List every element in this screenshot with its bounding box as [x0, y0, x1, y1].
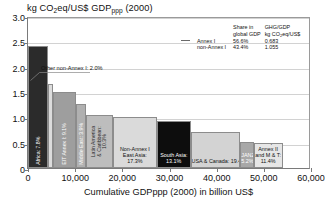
bar-label: South Asia: 13.1%	[158, 152, 190, 164]
legend-header-blank-2	[197, 31, 233, 38]
legend-header-row: Share in GHG/GDP	[197, 24, 304, 31]
legend-row-non-annex-i: non-Annex I 43.4% 1.055	[197, 44, 304, 51]
legend-row-label-non-annex-i: non-Annex I	[197, 44, 233, 51]
bar-label: Europe Annex II and M & T: 11.4%	[255, 143, 282, 164]
bar-label: JANZ: 5.2%	[241, 152, 252, 164]
bar-middle-east[interactable]: Middle East: 3.9%	[76, 104, 86, 168]
other-non-annex-callout-label: Other non-Annex I: 2.0%	[41, 65, 103, 71]
bar-eit-annex-i[interactable]: EIT Annex I: 9.1%	[53, 92, 76, 168]
legend-header-row-2: global GDP kg CO2eq/US$	[197, 31, 304, 38]
legend-header-ghg-line1: GHG/GDP	[265, 24, 305, 31]
legend-ghg-unit-post: eq/US$	[282, 31, 300, 37]
legend-row-label-annex-i: Annex I	[197, 38, 233, 45]
legend-row-ghg-annex-i: 0.683	[265, 38, 305, 45]
x-tick-label: 50,000	[250, 173, 278, 183]
bar-janz[interactable]: JANZ: 5.2%	[240, 142, 253, 168]
x-tick-label: 0	[25, 173, 30, 183]
y-tick-label: 1.5	[12, 89, 25, 99]
chart-title: kg CO2eq/US$ GDPppp (2000)	[27, 3, 153, 13]
bar-latin-america-and-caribbean[interactable]: Latin America & Caribbean: 10.3%	[86, 115, 112, 168]
y-gridline	[28, 18, 309, 19]
legend-header-blank	[197, 24, 233, 31]
bar-label: Latin America & Caribbean: 10.3%	[90, 118, 107, 165]
bar-label: USA & Canada: 19.4%	[192, 158, 240, 164]
legend-row-share-non-annex-i: 43.4%	[233, 44, 265, 51]
x-tick-label: 60,000	[297, 173, 325, 183]
chart-title-part-1: kg CO	[27, 3, 54, 13]
legend-ghg-unit-pre: kg CO	[265, 31, 280, 37]
x-tick-label: 30,000	[156, 173, 184, 183]
bar-label: EIT Annex I: 9.1%	[63, 124, 69, 165]
y-tick-label: 3.0	[12, 13, 25, 23]
chart-figure: kg CO2eq/US$ GDPppp (2000) 00.51.01.52.0…	[0, 0, 335, 200]
x-tick-label: 10,000	[61, 173, 89, 183]
y-tick-label: 1.0	[12, 114, 25, 124]
bar-label: Africa: 7.8%	[36, 137, 42, 165]
x-tick-mark	[217, 168, 218, 172]
x-tick-label: 20,000	[109, 173, 137, 183]
x-tick-mark	[75, 168, 76, 172]
legend-dash-annex-i	[181, 40, 190, 41]
y-tick-mark	[25, 43, 29, 44]
chart-title-subscript-co2: 2	[54, 7, 58, 14]
legend-header-share-line2: global GDP	[233, 31, 265, 38]
legend-row-ghg-non-annex-i: 1.055	[265, 44, 305, 51]
legend-row-share-annex-i: 56.6%	[233, 38, 265, 45]
legend-ghg-unit-sub: 2	[280, 33, 282, 38]
legend-row-annex-i: Annex I 56.6% 0.683	[197, 38, 304, 45]
chart-title-part-3: (2000)	[123, 3, 153, 13]
x-tick-mark	[170, 168, 171, 172]
legend-table: Share in GHG/GDP global GDP kg CO2eq/US$…	[197, 24, 304, 51]
y-tick-mark	[25, 18, 29, 19]
bar-europe-annex-ii-and-m-and-t[interactable]: Europe Annex II and M & T: 11.4%	[254, 143, 283, 168]
y-tick-label: 2.0	[12, 64, 25, 74]
bar-label: Middle East: 3.9%	[79, 123, 85, 165]
y-tick-label: 0.5	[12, 140, 25, 150]
x-tick-mark	[28, 168, 29, 172]
y-tick-label: 2.5	[12, 38, 25, 48]
chart-title-subscript-ppp: ppp	[111, 7, 122, 14]
y-tick-label: 0	[20, 165, 25, 175]
plot-area: 00.51.01.52.02.53.0 010,00020,00030,0004…	[27, 17, 310, 169]
x-tick-mark	[264, 168, 265, 172]
bar-usa-and-canada[interactable]: USA & Canada: 19.4%	[191, 132, 241, 168]
bar-non-annex-i-east-asia[interactable]: Non-Annex I East Asia: 17.3%	[113, 117, 157, 168]
legend-header-share-line1: Share in	[233, 24, 265, 31]
x-tick-mark	[122, 168, 123, 172]
bar-label: Non-Annex I East Asia: 17.3%	[114, 146, 156, 164]
x-tick-mark	[311, 168, 312, 172]
bar-south-asia[interactable]: South Asia: 13.1%	[157, 121, 191, 168]
legend-header-ghg-line2: kg CO2eq/US$	[265, 31, 305, 38]
chart-title-part-2: eq/US$ GDP	[57, 3, 111, 13]
x-axis-title: Cumulative GDPppp (2000) in billion US$	[27, 187, 310, 197]
x-tick-label: 40,000	[203, 173, 231, 183]
